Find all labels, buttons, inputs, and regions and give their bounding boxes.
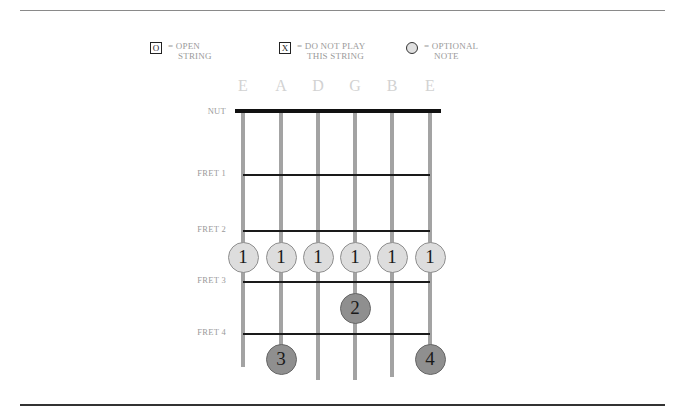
finger-dot: 1 [303,242,334,273]
finger-dot: 1 [415,242,446,273]
top-divider [20,10,665,11]
legend-optional-line1: = OPTIONAL [424,41,478,51]
fret-label-4: FRET 4 [150,327,226,337]
legend-open-line2: STRING [168,51,212,61]
string-name-2: D [308,77,328,95]
legend-mute-string: X = DO NOT PLAY THIS STRING [279,41,365,61]
finger-dot: 2 [340,293,371,324]
finger-dot: 3 [266,344,297,375]
string-name-0: E [233,77,253,95]
string-name-4: B [382,77,402,95]
nut [235,109,441,113]
fret-label-2: FRET 2 [150,224,226,234]
fret-wire [243,230,430,232]
open-string-icon: O [150,42,162,54]
string-name-1: A [271,77,291,95]
fret-label-1: FRET 1 [150,168,226,178]
finger-dot: 1 [266,242,297,273]
legend-optional-line2: NOTE [424,51,478,61]
legend-open-line1: = OPEN [168,41,212,51]
fret-wire [243,174,430,176]
legend-mute-line2: THIS STRING [297,51,365,61]
nut-label: NUT [150,106,226,116]
finger-dot: 1 [228,242,259,273]
finger-dot: 1 [377,242,408,273]
fret-wire [243,333,430,335]
optional-note-icon [406,42,418,54]
string-name-5: E [420,77,440,95]
guitar-string [241,112,245,367]
bottom-divider [20,404,665,406]
legend-optional-note: = OPTIONAL NOTE [406,41,478,61]
finger-dot: 1 [340,242,371,273]
fret-wire [243,281,430,283]
fret-label-3: FRET 3 [150,275,226,285]
mute-string-icon: X [279,42,291,54]
legend-mute-line1: = DO NOT PLAY [297,41,365,51]
legend-open-string: O = OPEN STRING [150,41,212,61]
finger-dot: 4 [415,344,446,375]
string-name-3: G [345,77,365,95]
